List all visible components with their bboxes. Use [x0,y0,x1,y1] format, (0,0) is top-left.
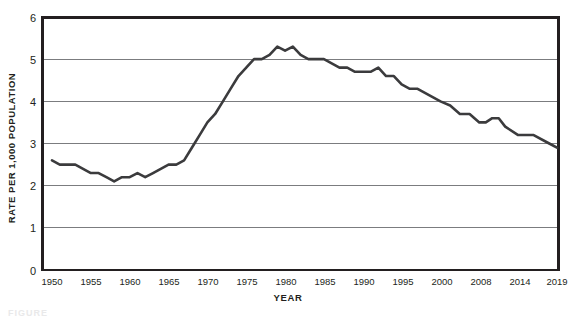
y-tick-label: 1 [30,222,36,234]
x-tick-label: 1975 [236,276,257,287]
y-tick-labels: 6 5 4 3 2 1 0 [30,12,36,277]
x-tick-label: 2000 [431,276,452,287]
y-tick-label: 3 [30,138,36,150]
x-tick-label: 2019 [546,276,567,287]
x-tick-label: 1990 [353,276,374,287]
x-tick-label: 1965 [158,276,179,287]
x-tick-label: 2008 [470,276,491,287]
x-tick-label: 1995 [392,276,413,287]
y-tick-label: 0 [30,265,36,277]
x-axis-title: YEAR [274,292,303,303]
y-tick-label: 2 [30,180,36,192]
x-tick-label: 1985 [314,276,335,287]
x-tick-labels: 1950 1955 1960 1965 1970 1975 1980 1985 … [41,276,567,287]
line-chart: 6 5 4 3 2 1 0 1950 1955 1960 1965 1970 1… [0,0,582,318]
figure-caption-partial: FIGURE [8,308,48,318]
y-tick-label: 4 [30,96,36,108]
x-tick-label: 1950 [41,276,62,287]
x-tick-label: 1970 [197,276,218,287]
x-tick-label: 2014 [509,276,530,287]
x-tick-label: 1955 [80,276,101,287]
y-axis-title: RATE PER 1,000 POPULATION [6,73,17,223]
x-tick-label: 1960 [119,276,140,287]
x-tick-label: 1980 [275,276,296,287]
y-tick-label: 6 [30,12,36,24]
y-tick-label: 5 [30,54,36,66]
figure-container: 6 5 4 3 2 1 0 1950 1955 1960 1965 1970 1… [0,0,582,318]
